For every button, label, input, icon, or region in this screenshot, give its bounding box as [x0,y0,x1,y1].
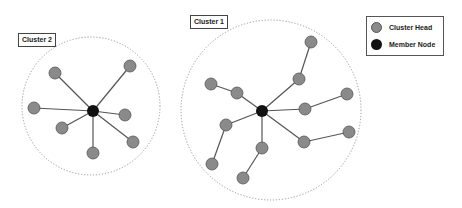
cluster-head-node [28,102,40,114]
gray-circle-icon [371,22,382,33]
legend-label-cluster-head: Cluster Head [389,24,432,31]
cluster-head-node [205,78,217,90]
cluster-2-group [22,37,160,175]
black-circle-icon [371,39,382,50]
cluster-head-node [220,119,232,131]
edge [55,73,93,111]
cluster-head-node [127,136,139,148]
cluster-head-node [237,172,249,184]
cluster-head-node [231,87,243,99]
member-node [256,105,268,117]
edge [262,79,299,111]
member-node [87,105,99,117]
legend-item-member-node: Member Node [371,39,435,50]
edge [262,111,304,142]
cluster-head-node [56,122,68,134]
cluster-head-node [119,109,131,121]
edge [305,94,347,109]
edge [93,66,130,111]
cluster-1-label: Cluster 1 [190,15,228,29]
edge [34,108,93,111]
cluster-head-node [206,158,218,170]
cluster-head-node [298,136,310,148]
cluster-head-node [341,88,353,100]
legend-item-cluster-head: Cluster Head [371,22,432,33]
legend-label-member-node: Member Node [389,41,435,48]
edge [304,132,349,142]
cluster-1-group [181,20,361,200]
cluster-head-node [87,147,99,159]
cluster-head-node [343,126,355,138]
cluster-head-node [305,36,317,48]
cluster-head-node [293,73,305,85]
cluster-2-label: Cluster 2 [18,33,56,47]
cluster-head-node [49,67,61,79]
legend: Cluster Head Member Node [366,16,444,56]
cluster-head-node [299,103,311,115]
edge [262,109,305,111]
cluster-head-node [256,142,268,154]
cluster-head-node [124,60,136,72]
